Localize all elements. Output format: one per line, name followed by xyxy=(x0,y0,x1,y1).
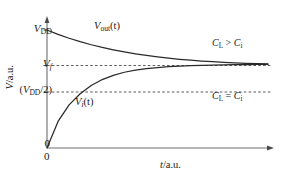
voltage-vs-time-chart: VDD Vf (VDD/2) 0 0 V/a.u. t/a.u. Vout(t)… xyxy=(0,0,290,185)
y-axis-title: V/a.u. xyxy=(5,54,16,100)
y-tick-label-zero: 0 xyxy=(45,138,51,149)
curve-label-v-i: Vi(t) xyxy=(75,97,93,109)
y-axis-arrow-icon xyxy=(45,16,50,23)
curve-label-v-out: Vout(t) xyxy=(94,21,120,33)
x-tick-label-zero: 0 xyxy=(44,151,50,162)
x-axis-arrow-icon xyxy=(267,146,274,151)
y-tick-label-vdd: VDD xyxy=(34,23,52,36)
x-axis-title: t/a.u. xyxy=(160,160,181,171)
annotation-cl-greater: CL > Ci xyxy=(212,38,242,50)
y-tick-label-vf: Vf xyxy=(43,58,52,71)
annotation-cl-equal: CL = Ci xyxy=(212,91,242,103)
y-tick-label-vdd-half: (VDD/2) xyxy=(20,85,53,97)
